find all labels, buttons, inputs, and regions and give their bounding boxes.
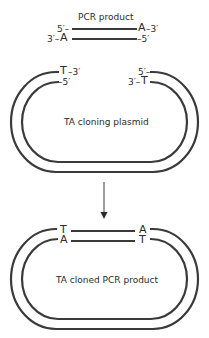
pcr-bottom-3prime: 3′– [47,34,59,44]
pcr-bottom-A-overhang: A [60,33,68,43]
pcr-top-3prime: –3′ [146,24,158,34]
cloned-right-bottom-T: T [139,235,146,245]
diagram-canvas [0,0,209,338]
plasmid-right-T-overhang: T [141,76,148,86]
arrow-head-icon [101,212,108,219]
cloned-product-label: TA cloned PCR product [56,275,158,285]
plasmid-right-3prime: 3′– [128,77,140,87]
plasmid-left-T-overhang: T [60,66,67,76]
pcr-product-title: PCR product [78,12,133,22]
plasmid-label: TA cloning plasmid [64,117,149,127]
plasmid-left-5prime: –5′ [58,77,70,87]
plasmid-left-3prime: –3′ [68,67,80,77]
cloned-left-bottom-A: A [60,235,68,245]
pcr-bottom-5prime: –5′ [137,34,149,44]
pcr-top-A-overhang: A [138,23,146,33]
